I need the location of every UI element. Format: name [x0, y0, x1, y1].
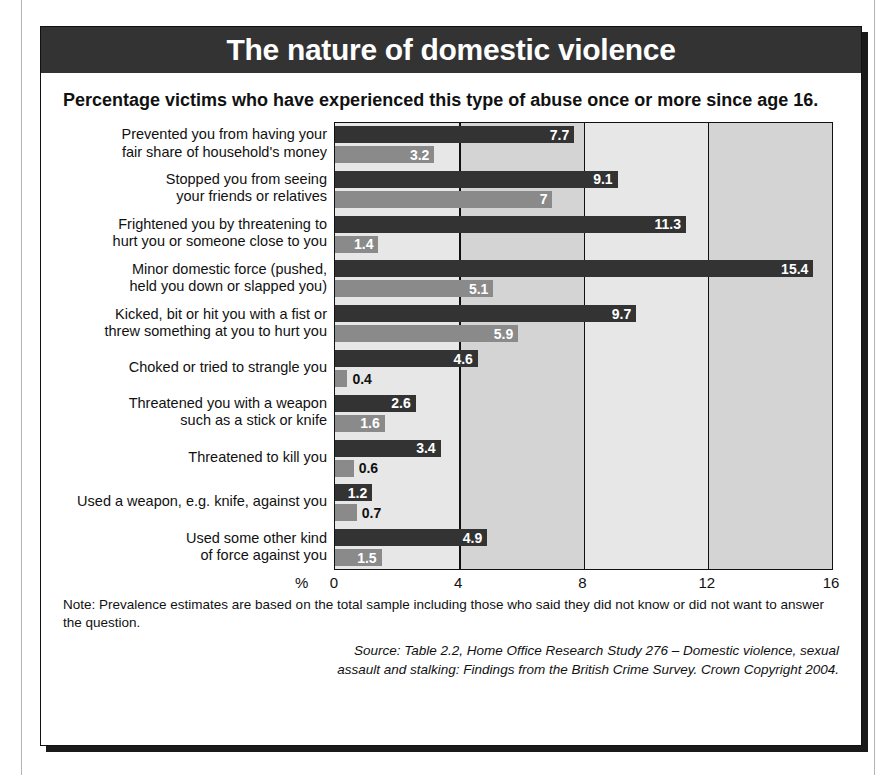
category-label-line: your friends or relatives: [57, 188, 327, 205]
category-label-line: held you down or slapped you): [57, 278, 327, 295]
bar-women: 3.4: [335, 440, 441, 457]
bar-men: 1.6: [335, 415, 385, 432]
x-axis-tick-label: 12: [698, 574, 715, 591]
bar-value-label: 3.4: [416, 440, 440, 456]
category-label-line: Used some other kind: [57, 530, 327, 547]
x-axis: 0481216: [334, 574, 833, 596]
bar-women: 9.1: [335, 171, 618, 188]
page-column-rule-right: [874, 0, 875, 775]
x-axis-tick-label: 16: [823, 574, 840, 591]
bar-chart: Prevented you from having yourfair share…: [57, 122, 845, 592]
bar-value-label: 0.6: [354, 460, 378, 476]
bar-rows: 7.73.29.1711.31.415.45.19.75.94.60.42.61…: [335, 123, 832, 569]
bar-value-label: 15.4: [781, 261, 813, 277]
bar-men: 1.4: [335, 236, 378, 253]
category-label-line: Threatened you with a weapon: [57, 395, 327, 412]
chart-source-line-1: Source: Table 2.2, Home Office Research …: [63, 642, 839, 660]
bar-group: 4.91.5: [335, 529, 832, 570]
bar-group: 9.17: [335, 171, 832, 213]
category-label-line: Threatened to kill you: [57, 449, 327, 466]
category-label: Threatened to kill you: [57, 449, 327, 466]
bar-group: 4.60.4: [335, 350, 832, 392]
category-label: Threatened you with a weaponsuch as a st…: [57, 395, 327, 429]
infographic-card: The nature of domestic violence Percenta…: [40, 26, 862, 746]
bar-women: 4.6: [335, 350, 478, 367]
category-label-line: Kicked, bit or hit you with a fist or: [57, 306, 327, 323]
category-label: Prevented you from having yourfair share…: [57, 126, 327, 160]
category-label-line: hurt you or someone close to you: [57, 233, 327, 250]
category-label-line: fair share of household's money: [57, 144, 327, 161]
category-label: Used a weapon, e.g. knife, against you: [57, 493, 327, 510]
bar-value-label: 5.9: [494, 326, 518, 342]
bar-men: 0.7: [335, 504, 357, 521]
bar-group: 7.73.2: [335, 126, 832, 168]
bar-value-label: 11.3: [655, 216, 686, 232]
category-label: Frightened you by threatening tohurt you…: [57, 216, 327, 250]
category-label-line: such as a stick or knife: [57, 412, 327, 429]
bar-value-label: 1.5: [357, 550, 381, 566]
chart-source-line-2: assault and stalking: Findings from the …: [63, 661, 839, 679]
category-label-line: Choked or tried to strangle you: [57, 359, 327, 376]
bar-women: 2.6: [335, 395, 416, 412]
bar-women: 11.3: [335, 216, 686, 233]
category-label: Kicked, bit or hit you with a fist orthr…: [57, 306, 327, 340]
bar-men: 1.5: [335, 549, 382, 566]
bar-men: 0.6: [335, 460, 354, 477]
bar-women: 7.7: [335, 126, 574, 143]
bar-value-label: 3.2: [410, 147, 434, 163]
category-label-line: Prevented you from having your: [57, 126, 327, 143]
chart-subtitle: Percentage victims who have experienced …: [41, 73, 861, 118]
plot-area: 7.73.29.1711.31.415.45.19.75.94.60.42.61…: [334, 122, 833, 570]
bar-group: 2.61.6: [335, 395, 832, 437]
bar-value-label: 2.6: [391, 395, 415, 411]
bar-men: 5.1: [335, 280, 493, 297]
bar-value-label: 4.6: [453, 351, 477, 367]
category-label-line: Used a weapon, e.g. knife, against you: [57, 493, 327, 510]
bar-women: 15.4: [335, 260, 813, 277]
bar-value-label: 5.1: [469, 281, 493, 297]
bar-value-label: 4.9: [463, 530, 487, 546]
category-label-line: Frightened you by threatening to: [57, 216, 327, 233]
category-label-line: threw something at you to hurt you: [57, 323, 327, 340]
bar-group: 11.31.4: [335, 216, 832, 258]
bar-group: 9.75.9: [335, 305, 832, 347]
bar-men: 0.4: [335, 370, 347, 387]
bar-men: 3.2: [335, 146, 434, 163]
bar-group: 1.20.7: [335, 484, 832, 526]
bar-value-label: 1.6: [360, 415, 384, 431]
x-axis-unit-label: %: [295, 574, 308, 591]
x-axis-tick-label: 4: [454, 574, 462, 591]
category-label: Minor domestic force (pushed,held you do…: [57, 261, 327, 295]
bar-value-label: 7.7: [550, 127, 574, 143]
category-label: Stopped you from seeingyour friends or r…: [57, 171, 327, 205]
bar-value-label: 7: [540, 191, 553, 207]
bar-group: 3.40.6: [335, 440, 832, 482]
bar-value-label: 1.4: [354, 236, 378, 252]
bar-value-label: 0.7: [357, 505, 381, 521]
bar-value-label: 9.1: [593, 171, 617, 187]
bar-value-label: 1.2: [348, 485, 372, 501]
bar-group: 15.45.1: [335, 260, 832, 302]
category-label-line: Stopped you from seeing: [57, 171, 327, 188]
category-label-line: Minor domestic force (pushed,: [57, 261, 327, 278]
bar-value-label: 0.4: [347, 371, 371, 387]
bar-women: 9.7: [335, 305, 636, 322]
category-label: Choked or tried to strangle you: [57, 359, 327, 376]
category-label-line: of force against you: [57, 547, 327, 564]
bar-women: 1.2: [335, 484, 372, 501]
bar-value-label: 9.7: [612, 306, 636, 322]
page-title: The nature of domestic violence: [226, 33, 675, 67]
chart-source: Source: Table 2.2, Home Office Research …: [41, 632, 861, 678]
chart-note: Note: Prevalence estimates are based on …: [41, 592, 861, 632]
bar-women: 4.9: [335, 529, 487, 546]
bar-men: 5.9: [335, 325, 518, 342]
category-label: Used some other kindof force against you: [57, 530, 327, 564]
x-axis-tick-label: 0: [330, 574, 338, 591]
title-bar: The nature of domestic violence: [41, 27, 861, 73]
page-column-rule-left: [21, 0, 22, 775]
x-axis-tick-label: 8: [578, 574, 586, 591]
bar-men: 7: [335, 191, 552, 208]
